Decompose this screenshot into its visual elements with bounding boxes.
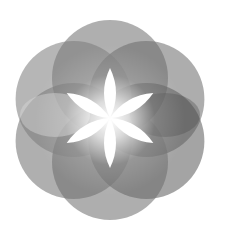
flower-of-life-logo	[0, 0, 225, 238]
